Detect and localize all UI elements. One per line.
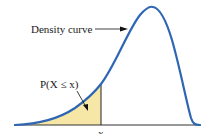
density-diagram: Density curve P(X ≤ x) x — [0, 0, 215, 134]
density-svg: Density curve P(X ≤ x) x — [0, 0, 215, 134]
probability-label: P(X ≤ x) — [40, 78, 79, 91]
x-tick-label: x — [97, 127, 103, 134]
shaded-probability-area — [15, 84, 101, 125]
density-curve-label: Density curve — [31, 23, 93, 35]
density-arrow-head — [120, 27, 128, 32]
